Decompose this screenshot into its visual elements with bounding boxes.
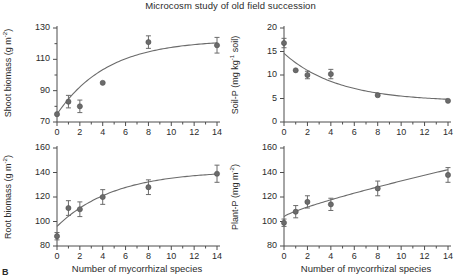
x-tick-label: 0 — [274, 127, 294, 137]
panel-root-biomass: 8010012014016002468101214Root biomass (g… — [0, 140, 226, 278]
data-point — [305, 72, 310, 77]
data-point — [214, 43, 219, 48]
data-point — [100, 194, 105, 199]
x-tick-label: 10 — [161, 127, 181, 137]
x-tick-label: 4 — [321, 251, 341, 261]
fit-curve — [57, 174, 217, 226]
data-point — [375, 186, 380, 191]
x-tick-label: 6 — [116, 127, 136, 137]
data-point — [66, 205, 71, 210]
x-tick-label: 12 — [184, 251, 204, 261]
data-point — [305, 199, 310, 204]
x-tick-label: 4 — [321, 127, 341, 137]
y-axis-label: Plant-P (mg m-2) — [230, 151, 240, 243]
x-tick-label: 10 — [391, 251, 411, 261]
data-point — [445, 172, 450, 177]
x-tick-label: 8 — [138, 127, 158, 137]
data-point — [445, 98, 450, 103]
data-point — [77, 207, 82, 212]
x-tick-label: 4 — [93, 127, 113, 137]
x-tick-label: 14 — [438, 251, 458, 261]
data-point — [328, 202, 333, 207]
data-point — [77, 104, 82, 109]
x-tick-label: 2 — [70, 127, 90, 137]
x-tick-label: 6 — [116, 251, 136, 261]
x-tick-label: 0 — [47, 127, 67, 137]
panel-plant-p: 8010012014016002468101214Plant-P (mg m-2… — [226, 140, 451, 278]
x-tick-label: 12 — [415, 127, 435, 137]
data-point — [293, 68, 298, 73]
data-point — [146, 185, 151, 190]
y-axis-label: Soil-P (mg kg-1 soil) — [230, 23, 240, 127]
x-tick-label: 8 — [368, 251, 388, 261]
data-point — [293, 209, 298, 214]
figure-title: Microcosm study of old field succession — [0, 0, 451, 11]
fit-curve — [284, 170, 448, 217]
data-point — [214, 171, 219, 176]
x-tick-label: 6 — [344, 251, 364, 261]
x-tick-label: 12 — [184, 127, 204, 137]
x-tick-label: 0 — [47, 251, 67, 261]
x-axis-label: Number of mycorrhizal species — [17, 263, 257, 274]
data-point — [54, 112, 59, 117]
y-axis-label: Root biomass (g m-2) — [3, 149, 13, 245]
x-tick-label: 12 — [415, 251, 435, 261]
data-point — [328, 71, 333, 76]
data-point — [54, 234, 59, 239]
panel-shoot-biomass: 709011013002468101214Shoot biomass (g m-… — [0, 12, 226, 138]
x-tick-label: 14 — [207, 251, 227, 261]
x-tick-label: 14 — [438, 127, 458, 137]
x-tick-label: 6 — [344, 127, 364, 137]
x-axis-label: Number of mycorrhizal species — [244, 263, 458, 274]
x-tick-label: 8 — [368, 127, 388, 137]
data-point — [281, 220, 286, 225]
x-tick-label: 10 — [161, 251, 181, 261]
data-point — [281, 40, 286, 45]
panel-letter-b: B — [2, 267, 9, 277]
x-tick-label: 2 — [297, 127, 317, 137]
x-tick-label: 2 — [297, 251, 317, 261]
data-point — [66, 99, 71, 104]
x-tick-label: 2 — [70, 251, 90, 261]
x-tick-label: 10 — [391, 127, 411, 137]
x-tick-label: 0 — [274, 251, 294, 261]
data-point — [100, 80, 105, 85]
data-point — [146, 40, 151, 45]
fit-curve — [57, 43, 217, 114]
x-tick-label: 4 — [93, 251, 113, 261]
y-axis-label: Shoot biomass (g m-2) — [3, 25, 13, 121]
x-tick-label: 8 — [138, 251, 158, 261]
x-tick-label: 14 — [207, 127, 227, 137]
panel-soil-p: 0510152002468101214Soil-P (mg kg-1 soil) — [226, 12, 451, 138]
data-point — [375, 93, 380, 98]
